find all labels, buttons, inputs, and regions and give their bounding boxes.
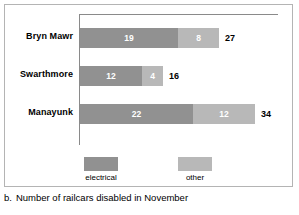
legend-item-other: other [157, 157, 233, 182]
category-label: Bryn Mawr [5, 31, 73, 41]
chart-frame: Bryn Mawr 19 8 27 Swarthmore 12 [4, 4, 293, 187]
stacked-bar: 12 4 16 [80, 66, 179, 86]
category-label: Manayunk [5, 107, 73, 117]
segment-value-label: 19 [124, 34, 133, 43]
category-label: Swarthmore [5, 69, 73, 79]
legend-swatch-icon [178, 157, 212, 171]
legend-swatch-icon [84, 157, 118, 171]
bar-segment-electrical: 19 [80, 28, 178, 48]
segment-value-label: 4 [150, 72, 155, 81]
segment-value-label: 8 [196, 34, 201, 43]
bar-segment-electrical: 12 [80, 66, 142, 86]
chart-figure: Bryn Mawr 19 8 27 Swarthmore 12 [0, 0, 299, 215]
bar-total-label: 16 [163, 66, 179, 86]
bar-total-label: 27 [219, 28, 235, 48]
legend-item-electrical: electrical [63, 157, 139, 182]
segment-value-label: 22 [132, 110, 141, 119]
bar-segment-other: 4 [142, 66, 163, 86]
bar-segment-other: 8 [178, 28, 219, 48]
legend-label: electrical [63, 173, 139, 182]
caption-letter: b. [4, 192, 12, 203]
stacked-bar: 22 12 34 [80, 104, 271, 124]
stacked-bar: 19 8 27 [80, 28, 235, 48]
bar-total-label: 34 [255, 104, 271, 124]
legend-label: other [157, 173, 233, 182]
caption-text: Number of railcars disabled in November [16, 192, 188, 203]
bar-segment-other: 12 [193, 104, 255, 124]
chart-legend: electrical other [5, 157, 294, 187]
plot-top-rule [79, 14, 278, 15]
segment-value-label: 12 [219, 110, 228, 119]
plot-area: Bryn Mawr 19 8 27 Swarthmore 12 [5, 5, 294, 188]
bar-segment-electrical: 22 [80, 104, 193, 124]
figure-caption: b.Number of railcars disabled in Novembe… [4, 192, 294, 203]
segment-value-label: 12 [106, 72, 115, 81]
